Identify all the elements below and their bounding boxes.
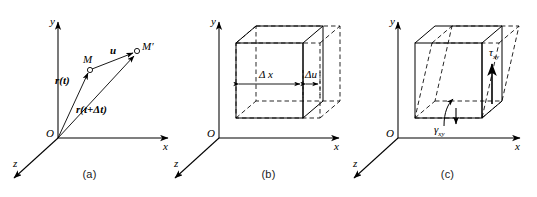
deformed-cube xyxy=(236,26,340,118)
x-axis-label: x xyxy=(163,141,168,152)
sheared-cube xyxy=(415,26,519,118)
y-axis-label: y xyxy=(50,16,55,27)
panel-b-normal-strain: y x z O Δ x Δu (b) xyxy=(179,0,358,197)
point-m xyxy=(87,67,92,72)
y-axis-label: y xyxy=(211,16,216,27)
point-m-label: M xyxy=(83,54,92,65)
z-axis-label: z xyxy=(353,158,357,169)
panel-a-position-vectors: y x z O M M′ u r(t) r(t+Δt) (a) xyxy=(0,0,179,197)
origin-label: O xyxy=(386,128,394,139)
panel-c-shear-strain: y x z O τxy γxy (c) xyxy=(358,0,537,197)
x-axis-label: x xyxy=(334,141,339,152)
origin-label: O xyxy=(207,128,215,139)
delta-u-label: Δu xyxy=(305,69,317,80)
panel-b-caption: (b) xyxy=(179,168,358,180)
shear-angle-label: γxy xyxy=(434,124,445,138)
delta-x-label: Δ x xyxy=(259,69,273,80)
vector-r-t-dt xyxy=(58,56,134,138)
origin-label: O xyxy=(46,128,54,139)
vector-u-label: u xyxy=(110,45,116,56)
shear-angle-arc xyxy=(444,99,453,126)
point-m-prime-label: M′ xyxy=(142,41,154,52)
x-axis-label: x xyxy=(515,141,520,152)
shear-stress-label: τxy xyxy=(489,47,499,61)
vector-r-t-dt-label: r(t+Δt) xyxy=(76,104,107,115)
original-cube xyxy=(415,26,502,118)
y-axis-label: y xyxy=(390,16,395,27)
z-axis-label: z xyxy=(174,158,178,169)
panel-c-caption: (c) xyxy=(358,168,537,180)
vector-r-t-label: r(t) xyxy=(55,75,70,86)
panel-a-caption: (a) xyxy=(0,168,179,180)
point-m-prime xyxy=(134,48,139,53)
figure-root: y x z O M M′ u r(t) r(t+Δt) (a) xyxy=(0,0,537,197)
